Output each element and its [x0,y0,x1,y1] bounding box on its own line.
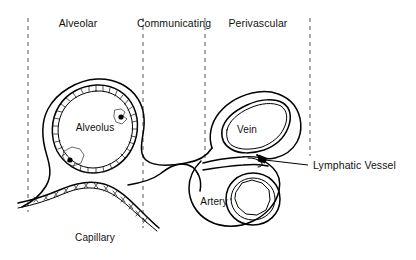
lymphatic-leader-line [265,160,308,165]
zone-label-perivascular: Perivascular [229,17,288,29]
alveolar-epithelial-flap-lower [63,147,84,166]
artery-group [226,173,280,225]
callout-label-lymphatic-vessel: Lymphatic Vessel [313,159,396,171]
structure-label-alveolus: Alveolus [76,122,115,133]
alveolar-cell-upper-right-nucleus [118,114,123,119]
callout-label-group: Lymphatic Vessel [313,159,396,171]
structure-label-capillary: Capillary [75,232,115,243]
zone-label-alveolar: Alveolar [59,17,98,29]
lymphatic-vessel-group [203,155,268,170]
pulmonary-interstitium-figure: Alveolar Communicating Perivascular Alve… [0,0,416,260]
lymphatic-endothelial-marker [258,155,266,163]
structure-label-group: Alveolus Vein Artery Capillary [75,122,257,243]
anatomical-diagram-canvas: Alveolar Communicating Perivascular Alve… [0,0,416,260]
artery-lumen-boundary [235,180,270,215]
lymphatic-upper-wall [203,157,266,163]
lymphatic-callout-group [265,160,308,165]
structure-label-vein: Vein [237,124,257,135]
structure-label-artery: Artery [200,196,227,207]
zone-label-communicating: Communicating [137,17,211,29]
artery-media-wall [231,178,275,220]
capillary-endothelium-hatches [34,183,147,223]
alveolar-cell-lower-left-nucleus [67,157,72,162]
alveolar-capillary-group [18,182,159,231]
zone-divider-group [28,18,310,228]
zone-label-group: Alveolar Communicating Perivascular [59,17,288,29]
capillary-upper-edge [18,182,159,228]
interstitial-sheath-outline [22,79,212,207]
